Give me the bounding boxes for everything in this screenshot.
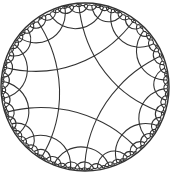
tiling-edges bbox=[2, 4, 169, 170]
tiling-edge-paths bbox=[2, 4, 169, 170]
hyperbolic-tiling-disk bbox=[0, 0, 170, 173]
